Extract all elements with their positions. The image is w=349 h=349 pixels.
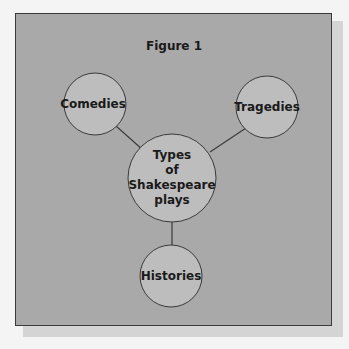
center-node-label: Types of Shakespeare plays [128,148,215,208]
node-histories-label: Histories [141,269,202,284]
center-line-4: plays [128,193,215,208]
center-line-3: Shakespeare [128,178,215,193]
node-comedies-label: Comedies [60,97,126,112]
node-tragedies-label: Tragedies [234,100,300,115]
connector-comedies [116,126,143,150]
center-line-2: of [128,163,215,178]
center-line-1: Types [128,148,215,163]
figure-title: Figure 1 [146,39,202,53]
